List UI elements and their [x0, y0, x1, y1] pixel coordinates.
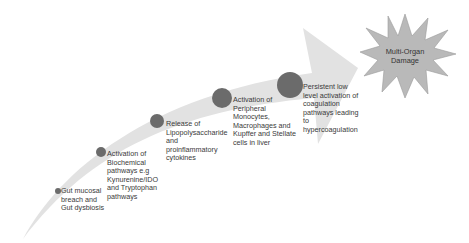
step-3-label: Release of Lipopolysaccharide and proinf… — [166, 120, 228, 163]
diagram-canvas: Gut mucosal breach and Gut dysbiosis Act… — [0, 0, 469, 243]
step-1-label: Gut mucosal breach and Gut dysbiosis — [61, 187, 104, 213]
step-4-marker — [212, 88, 232, 108]
step-4-label: Activation of Peripheral Monocytes, Macr… — [233, 96, 296, 148]
step-3-marker — [150, 114, 164, 128]
step-5-marker — [277, 72, 303, 98]
step-2-label: Activation of Biochemical pathways e.g K… — [107, 150, 158, 202]
outcome-label: Multi-Organ Damage — [375, 47, 435, 65]
step-5-label: Persistent low level activation of coagu… — [303, 83, 359, 135]
step-2-marker — [96, 147, 106, 157]
